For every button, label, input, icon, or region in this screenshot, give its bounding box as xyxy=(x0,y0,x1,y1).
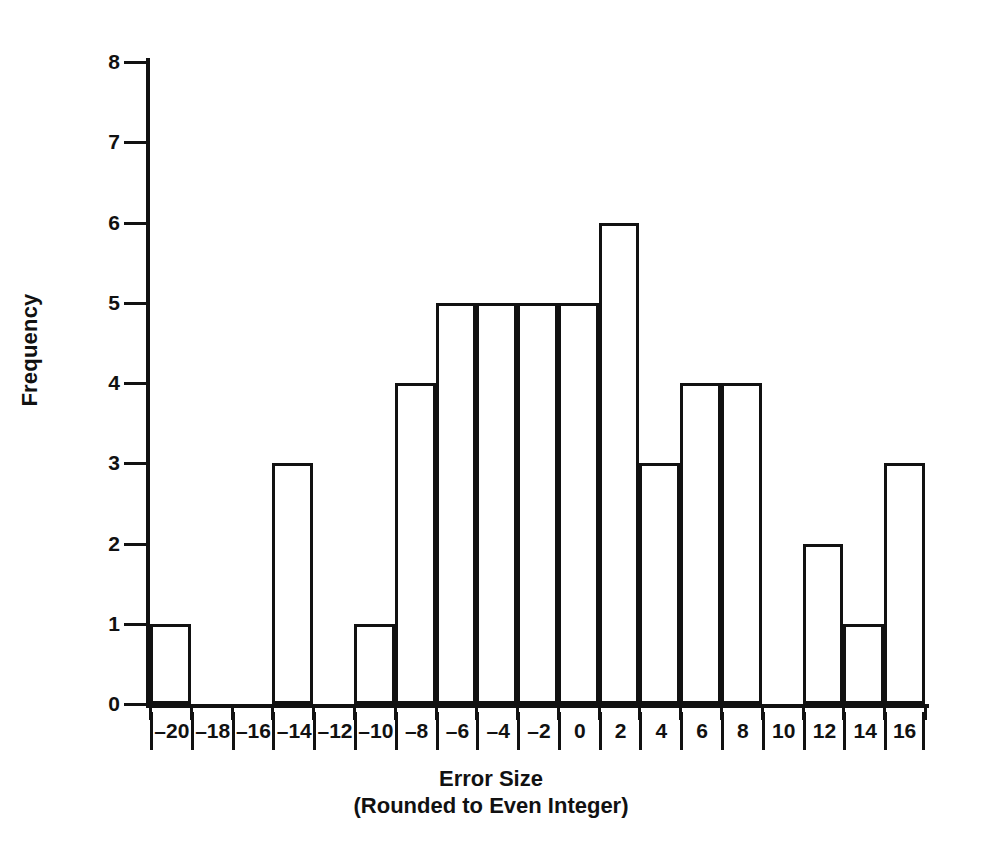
x-tick-label: 10 xyxy=(762,712,803,750)
histogram-bar xyxy=(639,463,680,704)
histogram-bar xyxy=(721,383,762,704)
x-tick-label: –12 xyxy=(313,712,354,750)
y-tick-mark xyxy=(124,623,146,626)
x-tick-label: 12 xyxy=(803,712,844,750)
x-axis-title-line-2: (Rounded to Even Integer) xyxy=(0,793,982,820)
y-tick-mark xyxy=(124,141,146,144)
histogram-bar xyxy=(803,544,844,705)
x-tick-label: –14 xyxy=(272,712,313,750)
x-axis-line xyxy=(146,704,929,708)
y-tick-mark xyxy=(124,462,146,465)
y-tick-label: 5 xyxy=(108,291,120,315)
y-tick-mark xyxy=(124,222,146,225)
histogram-bar xyxy=(395,383,436,704)
x-tick-label: –6 xyxy=(436,712,477,750)
x-tick-label: 0 xyxy=(558,712,599,750)
y-tick-label: 8 xyxy=(108,50,120,74)
histogram-bar xyxy=(843,624,884,704)
histogram-figure: Frequency 012345678 –20–18–16–14–12–10–8… xyxy=(0,0,982,852)
histogram-bar xyxy=(884,463,925,704)
histogram-bar xyxy=(680,383,721,704)
y-tick-mark xyxy=(124,302,146,305)
x-tick-label: 2 xyxy=(599,712,640,750)
x-tick-label: –10 xyxy=(354,712,395,750)
x-tick-label: –8 xyxy=(395,712,436,750)
x-tick-label: –2 xyxy=(517,712,558,750)
x-tick-label: 6 xyxy=(680,712,721,750)
y-axis-line xyxy=(146,58,150,708)
y-tick-label: 4 xyxy=(108,371,120,395)
histogram-bar xyxy=(517,303,558,704)
y-tick-mark xyxy=(124,61,146,64)
histogram-bar xyxy=(558,303,599,704)
histogram-bar xyxy=(150,624,191,704)
y-tick-label: 1 xyxy=(108,612,120,636)
x-tick-label: 16 xyxy=(884,712,925,750)
y-tick-label: 7 xyxy=(108,130,120,154)
y-tick-mark xyxy=(124,703,146,706)
x-tick-label: 8 xyxy=(721,712,762,750)
histogram-bar xyxy=(436,303,477,704)
x-tick-label: –18 xyxy=(191,712,232,750)
x-tick-label: –16 xyxy=(232,712,273,750)
x-axis-tick-labels: –20–18–16–14–12–10–8–6–4–20246810121416 xyxy=(146,712,929,750)
histogram-bar xyxy=(272,463,313,704)
y-tick-label: 0 xyxy=(108,692,120,716)
histogram-bar xyxy=(476,303,517,704)
y-axis-title-text: Frequency xyxy=(17,293,43,406)
histogram-bar xyxy=(354,624,395,704)
x-tick-label: –4 xyxy=(476,712,517,750)
plot-area: 012345678 xyxy=(150,62,925,704)
y-tick-mark xyxy=(124,543,146,546)
y-axis-title: Frequency xyxy=(0,0,60,700)
x-tick-label: 14 xyxy=(843,712,884,750)
y-tick-label: 6 xyxy=(108,211,120,235)
y-tick-label: 2 xyxy=(108,532,120,556)
y-tick-mark xyxy=(124,382,146,385)
histogram-bar xyxy=(599,223,640,705)
y-tick-label: 3 xyxy=(108,451,120,475)
x-tick-label: 4 xyxy=(639,712,680,750)
x-axis-title: Error Size (Rounded to Even Integer) xyxy=(0,766,982,820)
x-tick-label: –20 xyxy=(150,712,191,750)
x-axis-title-line-1: Error Size xyxy=(0,766,982,793)
